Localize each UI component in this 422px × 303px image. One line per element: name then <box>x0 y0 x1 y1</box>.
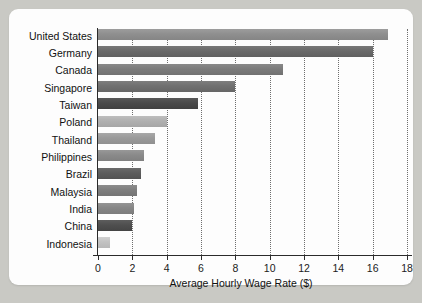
bar-malaysia <box>98 185 137 196</box>
category-label-china: China <box>13 220 97 232</box>
bar-row <box>98 133 155 144</box>
category-label-thailand: Thailand <box>13 134 97 146</box>
bar-row <box>98 116 167 127</box>
tick-label-0: 0 <box>95 262 101 274</box>
bar-thailand <box>98 133 155 144</box>
gridline-12 <box>304 29 305 255</box>
bar-row <box>98 29 388 40</box>
tick-label-2: 2 <box>129 262 135 274</box>
category-label-indonesia: Indonesia <box>13 238 97 250</box>
category-label-brazil: Brazil <box>13 168 97 180</box>
category-label-taiwan: Taiwan <box>13 99 97 111</box>
chart-card: United StatesGermanyCanadaSingaporeTaiwa… <box>9 9 413 285</box>
tick-label-18: 18 <box>401 262 413 274</box>
bar-row <box>98 64 283 75</box>
category-label-united-states: United States <box>13 30 97 42</box>
tick-mark-14 <box>338 255 339 260</box>
gridline-16 <box>373 29 374 255</box>
tick-mark-12 <box>304 255 305 260</box>
bar-row <box>98 150 144 161</box>
category-label-canada: Canada <box>13 64 97 76</box>
tick-label-6: 6 <box>198 262 204 274</box>
tick-mark-2 <box>132 255 133 260</box>
gridline-14 <box>338 29 339 255</box>
bar-canada <box>98 64 283 75</box>
bar-row <box>98 168 141 179</box>
bar-brazil <box>98 168 141 179</box>
bar-germany <box>98 46 373 57</box>
tick-mark-6 <box>201 255 202 260</box>
x-axis-line <box>93 255 412 256</box>
figure-root: United StatesGermanyCanadaSingaporeTaiwa… <box>0 0 422 303</box>
tick-label-16: 16 <box>367 262 379 274</box>
category-label-philippines: Philippines <box>13 151 97 163</box>
gridline-18 <box>407 29 408 255</box>
tick-label-4: 4 <box>164 262 170 274</box>
bar-philippines <box>98 150 144 161</box>
tick-label-12: 12 <box>298 262 310 274</box>
bar-india <box>98 203 134 214</box>
bar-row <box>98 203 134 214</box>
bar-china <box>98 220 132 231</box>
tick-mark-18 <box>407 255 408 260</box>
bar-row <box>98 46 373 57</box>
bar-row <box>98 237 110 248</box>
category-label-singapore: Singapore <box>13 82 97 94</box>
tick-mark-0 <box>98 255 99 260</box>
bar-row <box>98 220 132 231</box>
bar-singapore <box>98 81 235 92</box>
x-axis-title-text: Average Hourly Wage Rate ($) <box>110 277 313 289</box>
bar-row <box>98 81 235 92</box>
bar-row <box>98 98 198 109</box>
bar-row <box>98 185 137 196</box>
tick-label-14: 14 <box>332 262 344 274</box>
bar-united-states <box>98 29 388 40</box>
bar-poland <box>98 116 167 127</box>
category-label-malaysia: Malaysia <box>13 186 97 198</box>
bar-indonesia <box>98 237 110 248</box>
tick-label-8: 8 <box>232 262 238 274</box>
category-label-poland: Poland <box>13 116 97 128</box>
tick-mark-10 <box>270 255 271 260</box>
tick-mark-16 <box>373 255 374 260</box>
tick-mark-8 <box>235 255 236 260</box>
tick-mark-4 <box>167 255 168 260</box>
category-label-germany: Germany <box>13 47 97 59</box>
x-axis-title: Average Hourly Wage Rate ($) <box>9 277 413 289</box>
category-label-india: India <box>13 203 97 215</box>
bar-taiwan <box>98 98 198 109</box>
tick-label-10: 10 <box>264 262 276 274</box>
